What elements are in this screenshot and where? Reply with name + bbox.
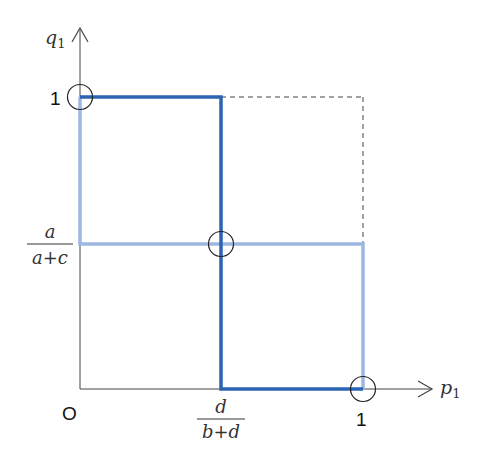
y-frac-numerator: a xyxy=(45,221,56,242)
unit-square-dashed xyxy=(221,97,363,244)
y-tick-one: 1 xyxy=(50,88,61,109)
y-tick-fraction: a a+c xyxy=(27,221,73,268)
x-frac-denominator: b+d xyxy=(202,421,240,442)
x-frac-numerator: d xyxy=(215,396,227,417)
axes xyxy=(72,28,432,397)
x-axis-label: p1 xyxy=(440,376,460,401)
origin-label: O xyxy=(62,403,77,424)
x-tick-one: 1 xyxy=(356,409,367,430)
x-tick-fraction: d b+d xyxy=(197,396,245,442)
y-frac-denominator: a+c xyxy=(32,247,68,268)
y-axis-label: q1 xyxy=(45,26,65,51)
best-response-diagram: q1 p1 1 1 O a a+c d b+d xyxy=(0,0,482,459)
